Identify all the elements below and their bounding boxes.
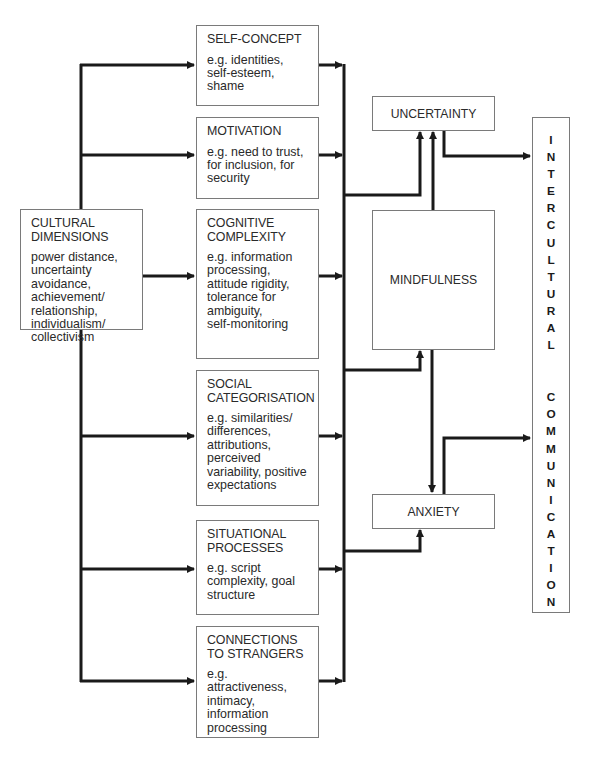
outcome-letter: C <box>547 389 556 406</box>
uncertainty-label: UNCERTAINTY <box>391 107 477 121</box>
mindfulness-box: MINDFULNESS <box>372 210 495 350</box>
outcome-letter: M <box>546 441 556 458</box>
intercultural-communication-box: I N T E R C U L T U R A L C O M M U N I … <box>532 117 570 613</box>
social-categorisation-box: SOCIAL CATEGORISATION e.g. similarities/… <box>196 370 319 506</box>
self-concept-box: SELF-CONCEPT e.g. identities, self-estee… <box>196 25 319 106</box>
outcome-letter: A <box>547 320 556 337</box>
motivation-box: MOTIVATION e.g. need to trust, for inclu… <box>196 117 319 199</box>
connections-to-strangers-box: CONNECTIONS TO STRANGERS e.g. attractive… <box>196 626 319 738</box>
outcome-letter: U <box>547 286 556 303</box>
outcome-letter: L <box>547 337 554 354</box>
outcome-letter: I <box>549 132 552 149</box>
outcome-letter: C <box>547 217 556 234</box>
factor-title: SOCIAL CATEGORISATION <box>207 378 308 405</box>
factor-description: e.g. identities, self-esteem, shame <box>207 54 308 94</box>
uncertainty-box: UNCERTAINTY <box>372 96 495 131</box>
outcome-letter: M <box>546 423 556 440</box>
outcome-letter: L <box>547 252 554 269</box>
mindfulness-label: MINDFULNESS <box>390 273 477 287</box>
factor-description: e.g. script complexity, goal structure <box>207 562 308 602</box>
outcome-letter: N <box>547 594 556 611</box>
factor-description: e.g. attractiveness, intimacy, informati… <box>207 668 308 735</box>
anxiety-box: ANXIETY <box>372 494 495 529</box>
outcome-letter: R <box>547 200 556 217</box>
outcome-letter: R <box>547 303 556 320</box>
outcome-letter: U <box>547 458 556 475</box>
outcome-letter: O <box>546 577 555 594</box>
factor-description: e.g. information processing, attitude ri… <box>207 251 308 331</box>
factor-title: COGNITIVE COMPLEXITY <box>207 217 308 244</box>
anxiety-label: ANXIETY <box>407 505 459 519</box>
outcome-letter: C <box>547 509 556 526</box>
outcome-letter: T <box>547 269 554 286</box>
outcome-letter: O <box>546 406 555 423</box>
outcome-letter: N <box>547 475 556 492</box>
cognitive-complexity-box: COGNITIVE COMPLEXITY e.g. information pr… <box>196 209 319 359</box>
cultural-dimensions-title: CULTURAL DIMENSIONS <box>31 217 132 244</box>
outcome-letter: T <box>547 543 554 560</box>
outcome-letter: T <box>547 166 554 183</box>
cultural-dimensions-description: power distance, uncertainty avoidance, a… <box>31 251 132 345</box>
outcome-letter: E <box>547 183 555 200</box>
factor-description: e.g. similarities/ differences, attribut… <box>207 412 308 492</box>
situational-processes-box: SITUATIONAL PROCESSES e.g. script comple… <box>196 520 319 615</box>
factor-description: e.g. need to trust, for inclusion, for s… <box>207 146 308 186</box>
factor-title: SITUATIONAL PROCESSES <box>207 528 308 555</box>
outcome-letter: N <box>547 149 556 166</box>
outcome-letter: A <box>547 526 556 543</box>
outcome-letter: I <box>549 492 552 509</box>
factor-title: CONNECTIONS TO STRANGERS <box>207 634 308 661</box>
factor-title: MOTIVATION <box>207 125 308 139</box>
factor-title: SELF-CONCEPT <box>207 33 308 47</box>
cultural-dimensions-box: CULTURAL DIMENSIONS power distance, unce… <box>20 209 143 330</box>
outcome-letter: U <box>547 235 556 252</box>
outcome-letter: I <box>549 560 552 577</box>
